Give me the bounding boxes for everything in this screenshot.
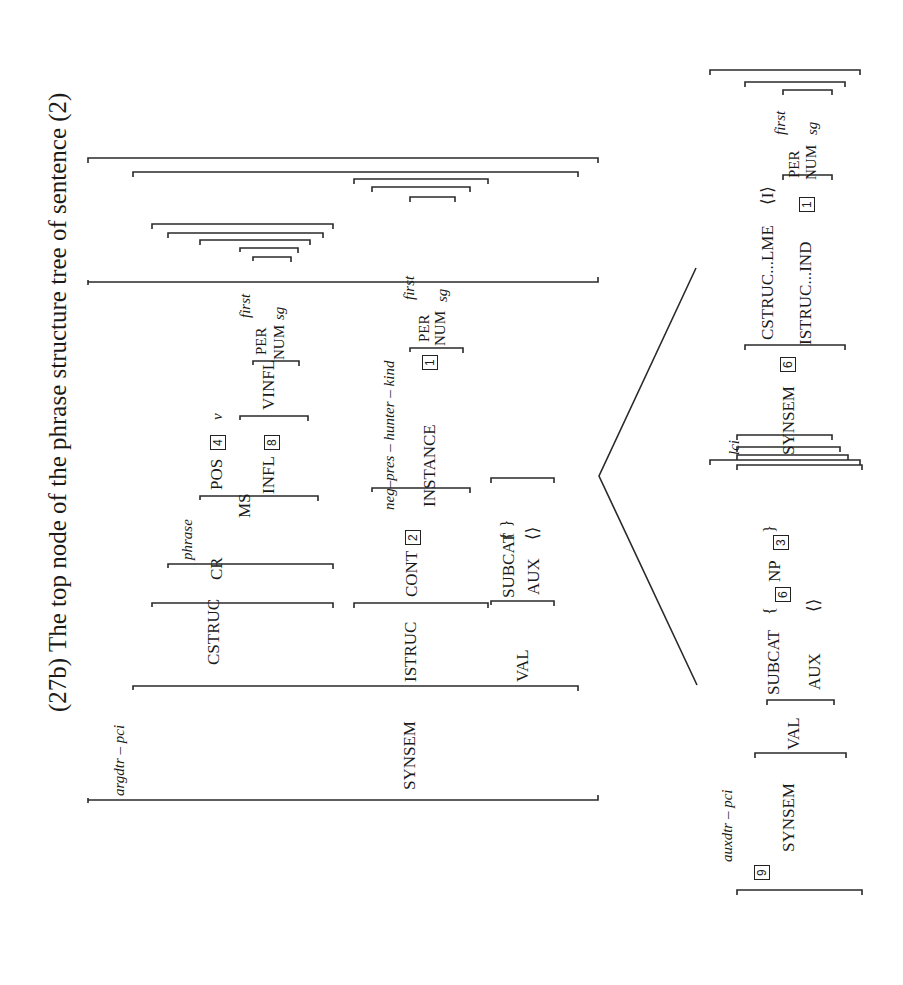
left-daughter-tag: 9 xyxy=(752,865,770,880)
istruc-ind-label: ISTRUC...IND xyxy=(797,242,814,345)
left-daughter-type: auxdtr – pci xyxy=(720,790,735,863)
ind-tag: 1 xyxy=(797,197,815,212)
val-label: VAL xyxy=(514,649,531,682)
right-num-value: sg xyxy=(805,122,820,135)
left-subcat-np-tag: 3 xyxy=(771,535,789,550)
vinfl-num-label: NUM xyxy=(272,325,287,360)
cr-label: CR xyxy=(208,557,225,580)
left-subcat-tag: 6 xyxy=(773,587,791,602)
avm-brackets xyxy=(0,0,903,985)
outer-top-bracket xyxy=(88,277,598,285)
tree-branches xyxy=(599,268,697,685)
aux-label: AUX xyxy=(525,558,542,595)
ms-label: MS xyxy=(236,493,253,518)
infl-tag: 8 xyxy=(262,435,280,450)
right-num-label: NUM xyxy=(804,145,819,180)
cont-type: neg–pres – hunter – kind xyxy=(382,361,397,510)
figure-caption: (27b) The top node of the phrase structu… xyxy=(45,93,70,712)
left-val-label: VAL xyxy=(785,717,802,750)
subcat-label: SUBCAT xyxy=(500,533,517,598)
right-per-label: PER xyxy=(787,150,802,178)
left-synsem-label: SYNSEM xyxy=(780,783,797,852)
cstruc-lme-value: ⟨I⟩ xyxy=(759,186,776,205)
instance-num-value: sg xyxy=(435,289,450,302)
top-avm-type: argdtr – pci xyxy=(112,725,127,796)
right-per-value: first xyxy=(773,111,788,135)
cont-tag: 2 xyxy=(403,530,421,545)
instance-per-label: PER xyxy=(417,314,432,342)
vinfl-label: VINFL xyxy=(260,360,277,410)
right-synsem-tag: 6 xyxy=(778,357,796,372)
vinfl-per-value: first xyxy=(238,294,253,318)
left-aux-value: ⟨⟩ xyxy=(805,599,822,612)
subcat-value: { } xyxy=(498,519,515,540)
pos-value: v xyxy=(210,413,225,420)
infl-label: INFL xyxy=(260,456,277,494)
left-subcat-close: } xyxy=(761,525,778,533)
instance-num-label: NUM xyxy=(433,311,448,346)
top-synsem-label: SYNSEM xyxy=(401,721,418,790)
phrase-type: phrase xyxy=(180,519,195,560)
cstruc-lme-label: CSTRUC...LME xyxy=(759,225,776,340)
right-daughter-type: lci xyxy=(727,440,742,455)
left-aux-label: AUX xyxy=(806,653,823,690)
instance-per-value: first xyxy=(402,276,417,300)
instance-tag: 1 xyxy=(420,355,438,370)
pos-label: POS xyxy=(208,459,225,490)
istruc-label: ISTRUC xyxy=(402,622,419,682)
left-subcat-open: { xyxy=(761,607,778,615)
instance-label: INSTANCE xyxy=(421,424,438,507)
pos-tag: 4 xyxy=(208,435,226,450)
vinfl-num-value: sg xyxy=(272,307,287,320)
right-synsem-label: SYNSEM xyxy=(780,386,797,455)
cstruc-label: CSTRUC xyxy=(205,599,222,665)
left-subcat-np: NP xyxy=(766,560,783,582)
cont-label: CONT xyxy=(403,551,420,597)
vinfl-per-label: PER xyxy=(254,327,269,355)
aux-value: ⟨⟩ xyxy=(524,527,541,540)
left-subcat-label: SUBCAT xyxy=(765,630,782,695)
